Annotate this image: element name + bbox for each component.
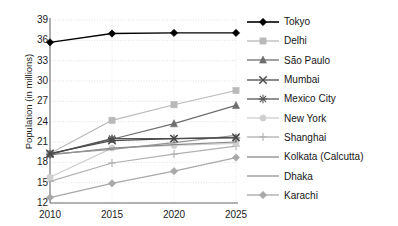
- legend-label: Mumbai: [281, 74, 320, 85]
- legend-label: Dhaka: [281, 171, 313, 182]
- legend-item[interactable]: Tokyo: [245, 12, 397, 31]
- marker-circle: [260, 115, 266, 121]
- marker-diamond: [46, 194, 53, 201]
- marker-diamond: [108, 180, 115, 187]
- legend-item[interactable]: Dhaka: [245, 166, 397, 185]
- legend-label: Kolkata (Calcutta): [281, 151, 363, 162]
- legend-item[interactable]: Delhi: [245, 31, 397, 50]
- marker-diamond: [232, 29, 239, 36]
- legend-label: Delhi: [281, 35, 307, 46]
- legend-item[interactable]: Mumbai: [245, 70, 397, 89]
- legend-label: São Paulo: [281, 55, 330, 66]
- legend-item[interactable]: New York: [245, 108, 397, 127]
- marker-diamond: [232, 154, 239, 161]
- legend-key-x-icon: [245, 73, 281, 87]
- legend-label: New York: [281, 113, 326, 124]
- legend-key-diamond-icon: [245, 188, 281, 202]
- series-mumbai: [46, 134, 239, 158]
- legend-label: Tokyo: [281, 16, 310, 27]
- marker-circle: [47, 174, 53, 180]
- legend-key-triangle-icon: [245, 53, 281, 67]
- marker-square: [233, 87, 239, 93]
- marker-diamond: [170, 167, 177, 174]
- legend-item[interactable]: Karachi: [245, 186, 397, 205]
- legend-label: Shanghai: [281, 132, 326, 143]
- series-karachi: [46, 154, 239, 201]
- legend-key-star-icon: [245, 92, 281, 106]
- marker-diamond: [259, 192, 266, 199]
- legend-key-none-icon: [245, 150, 281, 164]
- marker-triangle: [233, 102, 240, 109]
- marker-diamond: [108, 30, 115, 37]
- legend-item[interactable]: Shanghai: [245, 128, 397, 147]
- marker-square: [260, 38, 266, 44]
- series-line: [50, 143, 236, 177]
- series-tokyo: [46, 29, 239, 46]
- legend-key-circle-icon: [245, 111, 281, 125]
- chart-root: Population (in millions) 393633302724211…: [0, 0, 398, 226]
- marker-square: [109, 117, 115, 123]
- legend-key-diamond-icon: [245, 15, 281, 29]
- marker-diamond: [46, 39, 53, 46]
- legend-label: Karachi: [281, 190, 318, 201]
- legend-item[interactable]: São Paulo: [245, 51, 397, 70]
- legend-key-square-icon: [245, 34, 281, 48]
- legend-key-plus-icon: [245, 130, 281, 144]
- legend-key-none-icon: [245, 169, 281, 183]
- marker-diamond: [259, 18, 266, 25]
- series-line: [50, 33, 236, 42]
- marker-square: [171, 102, 177, 108]
- legend-label: Mexico City: [281, 93, 336, 104]
- chart-legend: TokyoDelhiSão PauloMumbaiMexico CityNew …: [245, 12, 397, 205]
- marker-diamond: [170, 29, 177, 36]
- legend-item[interactable]: Kolkata (Calcutta): [245, 147, 397, 166]
- legend-item[interactable]: Mexico City: [245, 89, 397, 108]
- series-line: [50, 137, 236, 153]
